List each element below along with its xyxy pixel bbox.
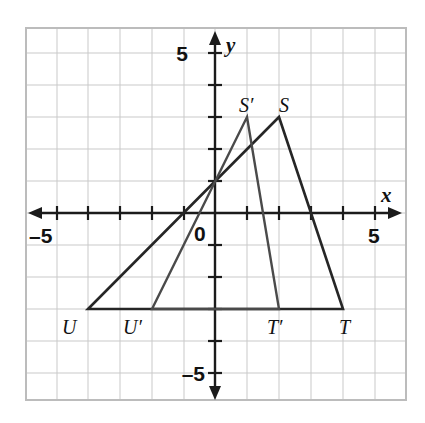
- vertex-label-t-prime: T′: [267, 316, 283, 338]
- vertex-label-u: U: [62, 316, 78, 338]
- y-tick-label-positive-five: 5: [176, 42, 188, 65]
- coordinate-plane-figure: y x –5 5 5 –5 0 S′ S U U′ T′ T: [0, 0, 425, 423]
- vertex-label-t: T: [339, 316, 352, 338]
- vertex-label-s: S: [279, 94, 289, 116]
- graph-canvas: y x –5 5 5 –5 0 S′ S U U′ T′ T: [0, 0, 425, 423]
- x-tick-label-negative-five: –5: [29, 224, 53, 247]
- y-axis: [208, 31, 222, 400]
- vertex-label-u-prime: U′: [123, 316, 142, 338]
- vertex-label-s-prime: S′: [239, 94, 254, 116]
- x-tick-label-positive-five: 5: [368, 224, 380, 247]
- x-axis-label: x: [380, 183, 392, 207]
- y-tick-label-negative-five: –5: [182, 362, 206, 385]
- origin-label: 0: [194, 222, 206, 245]
